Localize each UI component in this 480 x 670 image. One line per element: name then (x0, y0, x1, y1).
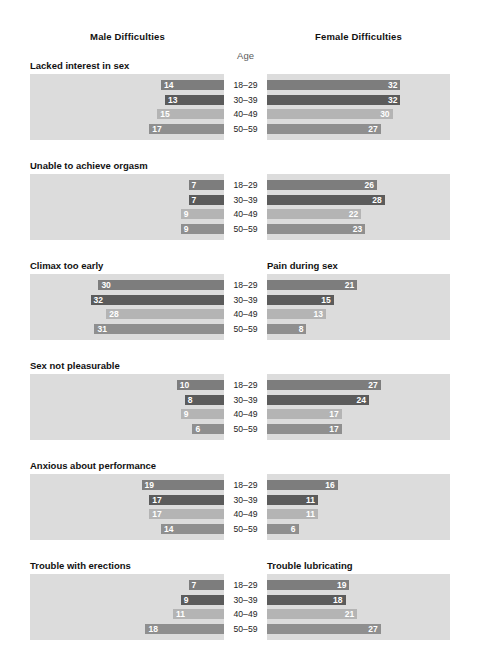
bar-male: 8 (185, 395, 224, 405)
bar-female: 16 (267, 480, 338, 490)
section-title-female: Trouble lubricating (267, 560, 353, 571)
section-title-male: Trouble with erections (30, 560, 131, 571)
age-label: 18–29 (224, 580, 267, 590)
bar-female: 8 (267, 324, 306, 334)
bar-female: 23 (267, 224, 365, 234)
bar-female: 6 (267, 524, 299, 534)
age-column-header: Age (224, 50, 267, 61)
bar-male: 6 (192, 424, 224, 434)
bar-female: 11 (267, 495, 318, 505)
section-title-male: Sex not pleasurable (30, 360, 120, 371)
bar-male: 28 (106, 309, 224, 319)
age-label: 50–59 (224, 224, 267, 234)
bar-female: 21 (267, 609, 357, 619)
bar-female: 17 (267, 409, 342, 419)
bar-female: 22 (267, 209, 361, 219)
bar-male: 9 (181, 409, 224, 419)
age-label: 18–29 (224, 180, 267, 190)
age-label: 30–39 (224, 95, 267, 105)
age-label: 18–29 (224, 280, 267, 290)
age-label: 30–39 (224, 295, 267, 305)
age-label: 40–49 (224, 109, 267, 119)
age-label: 18–29 (224, 380, 267, 390)
bar-female: 26 (267, 180, 377, 190)
bar-female: 21 (267, 280, 357, 290)
male-column-header: Male Difficulties (30, 31, 225, 42)
bar-male: 14 (161, 80, 224, 90)
bar-male: 31 (94, 324, 224, 334)
age-label: 40–49 (224, 309, 267, 319)
bar-male: 9 (181, 595, 224, 605)
age-label: 50–59 (224, 324, 267, 334)
bar-male: 7 (189, 580, 224, 590)
section-title-female: Pain during sex (267, 260, 338, 271)
bar-male: 9 (181, 209, 224, 219)
bar-female: 27 (267, 124, 381, 134)
female-column-header: Female Difficulties (267, 31, 450, 42)
age-label: 30–39 (224, 495, 267, 505)
age-label: 30–39 (224, 595, 267, 605)
bar-male: 14 (161, 524, 224, 534)
section-title-male: Anxious about performance (30, 460, 156, 471)
bar-female: 27 (267, 624, 381, 634)
bar-female: 19 (267, 580, 349, 590)
age-label: 50–59 (224, 624, 267, 634)
section-title-male: Climax too early (30, 260, 103, 271)
section-title-male: Unable to achieve orgasm (30, 160, 148, 171)
bar-male: 17 (149, 124, 224, 134)
age-label: 18–29 (224, 80, 267, 90)
bar-female: 24 (267, 395, 369, 405)
bar-female: 11 (267, 509, 318, 519)
section-title-male: Lacked interest in sex (30, 60, 129, 71)
bar-male: 7 (189, 180, 224, 190)
bar-male: 7 (189, 195, 224, 205)
bar-female: 32 (267, 95, 400, 105)
bar-male: 13 (165, 95, 224, 105)
age-label: 40–49 (224, 209, 267, 219)
chart-container: Male Difficulties Female Difficulties Ag… (0, 0, 480, 670)
bar-male: 11 (173, 609, 224, 619)
bar-male: 10 (177, 380, 224, 390)
bar-female: 28 (267, 195, 385, 205)
age-label: 40–49 (224, 609, 267, 619)
bar-female: 32 (267, 80, 400, 90)
age-label: 50–59 (224, 124, 267, 134)
bar-female: 27 (267, 380, 381, 390)
bar-male: 17 (149, 495, 224, 505)
age-label: 50–59 (224, 424, 267, 434)
age-label: 50–59 (224, 524, 267, 534)
bar-male: 18 (145, 624, 224, 634)
age-label: 30–39 (224, 195, 267, 205)
bar-male: 19 (142, 480, 224, 490)
bar-female: 13 (267, 309, 326, 319)
bar-male: 15 (157, 109, 224, 119)
age-label: 30–39 (224, 395, 267, 405)
bar-male: 30 (98, 280, 224, 290)
bar-male: 9 (181, 224, 224, 234)
bar-female: 30 (267, 109, 393, 119)
bar-male: 32 (91, 295, 224, 305)
bar-female: 15 (267, 295, 334, 305)
bar-female: 17 (267, 424, 342, 434)
bar-female: 18 (267, 595, 346, 605)
age-label: 40–49 (224, 409, 267, 419)
age-label: 18–29 (224, 480, 267, 490)
age-label: 40–49 (224, 509, 267, 519)
bar-male: 17 (149, 509, 224, 519)
